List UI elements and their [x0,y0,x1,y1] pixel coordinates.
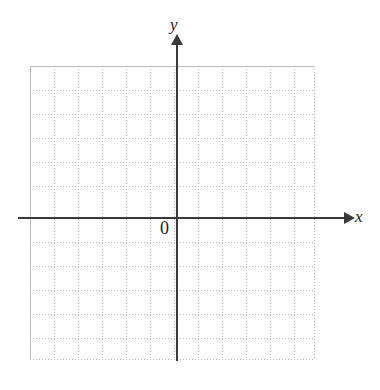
y-axis-arrowhead-icon [171,34,183,45]
grid-vline [78,66,79,360]
grid-hline [30,66,315,67]
origin-label: 0 [160,219,169,237]
grid-vline [126,66,127,360]
grid-vline [54,66,55,360]
grid-vline [222,66,223,360]
grid-vline [102,66,103,360]
grid-hline [30,290,315,291]
x-axis-line [18,217,348,219]
grid-hline [30,242,315,243]
grid-hline [30,266,315,267]
grid-hline [30,186,315,187]
dotted-grid [30,66,315,360]
grid-hline [30,359,315,360]
grid-hline [30,138,315,139]
grid-vline [30,66,31,360]
grid-vline [294,66,295,360]
x-axis-label: x [355,208,363,225]
grid-vline [198,66,199,360]
grid-hline [30,90,315,91]
grid-hline [30,162,315,163]
x-axis-arrowhead-icon [344,212,355,224]
y-axis-label: y [170,16,178,33]
grid-hline [30,114,315,115]
grid-vline [246,66,247,360]
grid-vline [270,66,271,360]
grid-vline [314,66,315,360]
grid-hline [30,314,315,315]
grid-hline [30,338,315,339]
coordinate-grid-figure: x y 0 [0,0,380,390]
grid-vline [150,66,151,360]
grid-vline [174,66,175,360]
y-axis-line [176,44,178,361]
